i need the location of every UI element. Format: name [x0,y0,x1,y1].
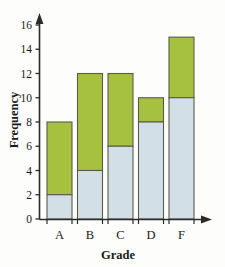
bar-segment-lower [78,171,103,220]
y-tick-label: 16 [21,19,33,31]
bar-segment-upper [47,122,72,195]
y-tick-label: 8 [26,116,32,128]
x-category-label: D [146,228,155,242]
bar-segment-lower [169,98,194,219]
y-tick-label: 2 [26,189,32,201]
y-tick-label: 4 [26,165,32,177]
bar-segment-lower [47,195,72,219]
bar-segment-lower [139,122,164,219]
x-category-label: B [86,228,94,242]
y-tick-label: 6 [26,140,32,152]
x-category-label: C [116,228,124,242]
y-axis-title: Frequency [7,91,21,148]
arrow-right-icon [201,216,212,224]
bars-group [47,37,194,219]
x-axis-title: Grade [101,248,135,262]
bar-segment-upper [108,74,133,147]
y-tick-label: 0 [26,213,32,225]
bar-segment-upper [169,37,194,98]
x-category-label: A [55,228,64,242]
y-axis [36,13,44,219]
bar-segment-upper [139,98,164,122]
arrow-up-icon [36,13,44,24]
x-tick-group: ABCDF [47,219,194,242]
y-tick-label: 10 [21,92,33,104]
bar-segment-lower [108,146,133,219]
chart-canvas: 0246810121416 ABCDF Frequency Grade [0,0,225,267]
y-tick-label: 14 [21,43,33,55]
bar-segment-upper [78,74,103,171]
stacked-bar-chart: 0246810121416 ABCDF Frequency Grade [0,0,225,267]
x-category-label: F [178,228,185,242]
y-tick-group: 0246810121416 [21,19,41,225]
y-tick-label: 12 [21,68,33,80]
